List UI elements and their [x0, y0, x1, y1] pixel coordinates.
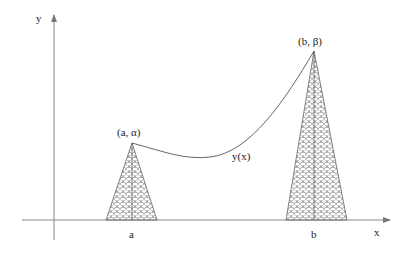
curve-y-of-x	[132, 51, 314, 158]
point-label-a-alpha: (a, α)	[117, 126, 141, 139]
right-spike	[286, 51, 347, 220]
tick-label-b: b	[311, 228, 317, 240]
point-label-b-beta: (b, β)	[298, 35, 322, 48]
y-axis-label: y	[36, 12, 42, 24]
diagram-canvas: y x a b (a, α) (b, β) y(x)	[0, 0, 406, 258]
left-spike	[106, 143, 157, 220]
x-axis-label: x	[374, 226, 380, 238]
tick-label-a: a	[129, 228, 134, 240]
curve-label: y(x)	[232, 150, 251, 163]
